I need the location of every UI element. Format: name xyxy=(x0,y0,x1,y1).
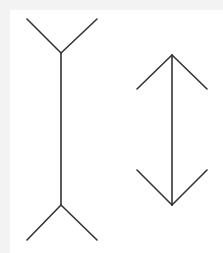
muller-lyer-diagram xyxy=(0,0,223,253)
top-fin-line xyxy=(172,55,207,89)
bottom-fin-line xyxy=(27,205,61,240)
bottom-fin-line xyxy=(61,205,97,240)
top-fin-line xyxy=(61,19,97,53)
fins-out-figure xyxy=(27,19,97,240)
bottom-fin-line xyxy=(172,170,207,205)
top-fin-line xyxy=(137,55,172,89)
arrows-in-figure xyxy=(137,55,207,205)
top-fin-line xyxy=(27,19,61,53)
bottom-fin-line xyxy=(137,170,172,205)
